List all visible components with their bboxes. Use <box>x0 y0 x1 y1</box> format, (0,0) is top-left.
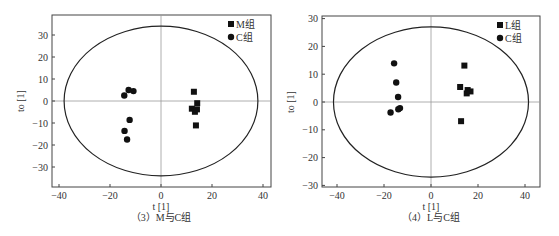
x-tick-label: 20 <box>207 190 217 201</box>
legend-label: L组 <box>505 19 521 31</box>
scatter-plot-l-vs-c: −30−20−100102030−40−2002040t [1]to [1]（4… <box>280 0 559 236</box>
data-point-square <box>457 84 463 90</box>
legend-square-icon <box>228 21 234 27</box>
y-tick-label: 10 <box>38 74 48 85</box>
x-tick-label: −20 <box>102 190 118 201</box>
y-tick-label: −10 <box>32 118 48 129</box>
y-tick-label: −30 <box>32 162 48 173</box>
y-tick-label: 0 <box>43 96 48 107</box>
data-point-circle <box>130 88 136 94</box>
y-tick-label: −20 <box>32 140 48 151</box>
data-point-square <box>194 100 200 106</box>
data-point-square <box>191 89 197 95</box>
data-point-square <box>458 118 464 124</box>
legend-circle-icon <box>228 34 234 40</box>
data-point-circle <box>395 106 401 112</box>
x-tick-label: 0 <box>159 190 164 201</box>
y-tick-label: −10 <box>302 124 318 135</box>
y-tick-label: 30 <box>38 30 48 41</box>
x-tick-label: −40 <box>329 190 345 201</box>
chart-panel-m-vs-c: −30−20−100102030−40−2002040t [1]to [1]（3… <box>0 0 280 236</box>
x-axis-label: t [1] <box>423 201 440 212</box>
x-tick-label: 40 <box>520 190 530 201</box>
data-point-circle <box>121 128 127 134</box>
y-tick-label: 10 <box>308 69 318 80</box>
y-tick-label: 20 <box>38 52 48 63</box>
y-tick-label: −20 <box>302 152 318 163</box>
legend-label: C组 <box>505 32 522 44</box>
data-point-square <box>193 122 199 128</box>
data-point-circle <box>121 92 127 98</box>
figure-caption: （3）M与C组 <box>131 211 192 223</box>
legend-square-icon <box>497 22 503 28</box>
x-tick-label: −40 <box>51 190 67 201</box>
y-tick-label: 0 <box>313 97 318 108</box>
legend-label: C组 <box>236 31 253 43</box>
data-point-circle <box>395 94 401 100</box>
chart-panel-l-vs-c: −30−20−100102030−40−2002040t [1]to [1]（4… <box>280 0 559 236</box>
data-point-circle <box>393 79 399 85</box>
y-tick-label: −30 <box>302 180 318 191</box>
x-tick-label: 0 <box>429 190 434 201</box>
legend-circle-icon <box>497 35 503 41</box>
data-point-circle <box>391 60 397 66</box>
data-point-circle <box>126 117 132 123</box>
y-tick-label: 30 <box>308 13 318 24</box>
data-point-circle <box>124 136 130 142</box>
scatter-plot-m-vs-c: −30−20−100102030−40−2002040t [1]to [1]（3… <box>0 0 280 236</box>
x-axis-label: t [1] <box>153 201 170 212</box>
legend-label: M组 <box>236 18 255 30</box>
x-tick-label: 40 <box>258 190 268 201</box>
y-axis-label: to [1] <box>15 90 26 112</box>
data-point-circle <box>387 109 393 115</box>
data-point-square <box>461 63 467 69</box>
data-point-square <box>194 106 200 112</box>
x-tick-label: 20 <box>473 190 483 201</box>
data-point-square <box>464 90 470 96</box>
y-axis-label: to [1] <box>285 91 296 113</box>
y-tick-label: 20 <box>308 41 318 52</box>
x-tick-label: −20 <box>376 190 392 201</box>
figure-caption: （4）L与C组 <box>402 211 460 223</box>
